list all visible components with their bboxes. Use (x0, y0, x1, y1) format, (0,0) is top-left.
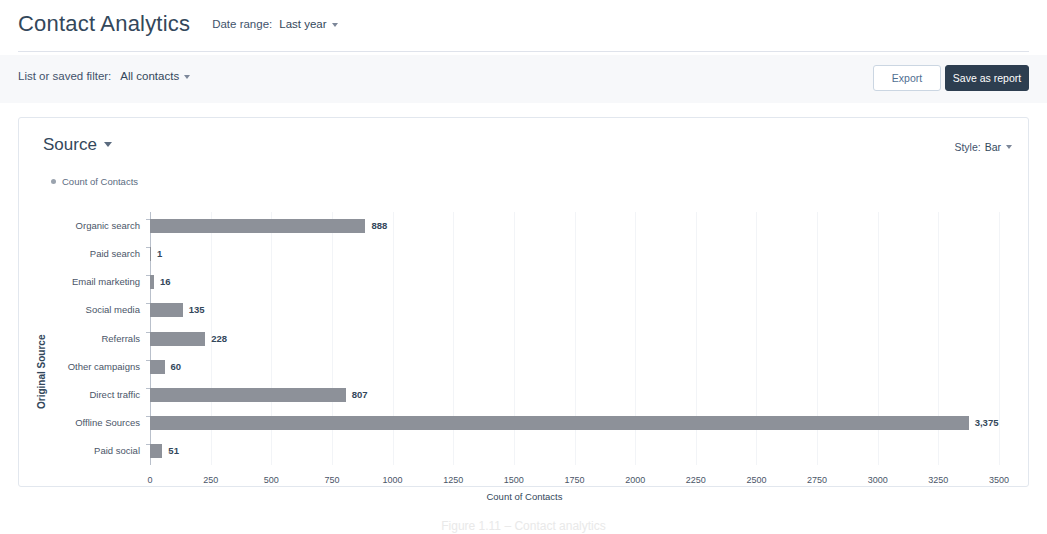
date-range-value: Last year (279, 18, 326, 30)
bar[interactable] (150, 303, 183, 317)
page-title: Contact Analytics (18, 11, 190, 37)
bar[interactable] (150, 219, 365, 233)
filter-bar: List or saved filter: All contacts Expor… (0, 55, 1047, 103)
save-as-report-button[interactable]: Save as report (945, 65, 1029, 91)
bar-value-label: 3,375 (975, 417, 999, 428)
x-axis-tick-label: 500 (264, 475, 279, 485)
figure-caption: Figure 1.11 – Contact analytics (0, 519, 1047, 533)
bar-value-label: 888 (371, 220, 387, 231)
bar[interactable] (150, 444, 162, 458)
x-axis-tick-label: 0 (147, 475, 152, 485)
chevron-down-icon (332, 23, 338, 27)
bar-value-label: 807 (352, 389, 368, 400)
bar-row[interactable]: 51 (150, 437, 999, 465)
date-range-selector[interactable]: Date range: Last year (212, 18, 337, 30)
x-axis-tick-label: 2250 (686, 475, 706, 485)
x-axis-tick-label: 1750 (564, 475, 584, 485)
bar-value-label: 60 (171, 361, 182, 372)
bar[interactable] (150, 388, 346, 402)
y-axis-category-label: Other campaigns (28, 361, 140, 372)
bar-row[interactable]: 807 (150, 381, 999, 409)
y-axis-category-label: Organic search (28, 220, 140, 231)
bar[interactable] (150, 360, 165, 374)
x-axis-tick-label: 2750 (807, 475, 827, 485)
x-axis-tick-label: 1500 (504, 475, 524, 485)
bar[interactable] (150, 332, 205, 346)
bar-value-label: 51 (168, 445, 179, 456)
chevron-down-icon (184, 75, 190, 79)
saved-filter-selector[interactable]: List or saved filter: All contacts (18, 70, 190, 82)
saved-filter-label: List or saved filter: (18, 70, 111, 82)
x-axis-tick-label: 3250 (928, 475, 948, 485)
y-axis-category-label: Email marketing (28, 276, 140, 287)
x-axis-tick-label: 1250 (443, 475, 463, 485)
y-axis-category-label: Offline Sources (28, 417, 140, 428)
y-axis-category-label: Direct traffic (28, 389, 140, 400)
plot-area: 0250500750100012501500175020002250250027… (150, 212, 999, 465)
page-header: Contact Analytics Date range: Last year (0, 0, 1047, 48)
x-axis-tick-label: 2500 (746, 475, 766, 485)
bar-row[interactable]: 135 (150, 296, 999, 324)
y-axis-category-label: Paid search (28, 248, 140, 259)
export-button[interactable]: Export (873, 65, 941, 91)
saved-filter-value: All contacts (120, 70, 179, 82)
bar[interactable] (150, 275, 154, 289)
bar-value-label: 16 (160, 276, 171, 287)
bar-row[interactable]: 3,375 (150, 409, 999, 437)
bar-row[interactable]: 1 (150, 240, 999, 268)
y-axis-category-label: Social media (28, 304, 140, 315)
bar-row[interactable]: 60 (150, 353, 999, 381)
x-axis-tick-label: 750 (324, 475, 339, 485)
bar-row[interactable]: 16 (150, 268, 999, 296)
x-axis-tick-label: 3000 (868, 475, 888, 485)
x-axis-tick-label: 2000 (625, 475, 645, 485)
x-axis-tick-label: 250 (203, 475, 218, 485)
bar-row[interactable]: 888 (150, 212, 999, 240)
x-axis-title: Count of Contacts (19, 491, 1030, 502)
date-range-label: Date range: (212, 18, 272, 30)
bar-chart: Original Source 025050075010001250150017… (19, 118, 1030, 488)
bar[interactable] (150, 416, 969, 430)
bar-row[interactable]: 228 (150, 325, 999, 353)
bar-value-label: 135 (189, 304, 205, 315)
bar[interactable] (150, 247, 151, 261)
y-axis-category-label: Paid social (28, 445, 140, 456)
x-axis-tick-label: 3500 (989, 475, 1009, 485)
chart-card: Source Style:Bar Count of Contacts Origi… (18, 117, 1029, 487)
bar-value-label: 228 (211, 333, 227, 344)
x-axis-tick-label: 1000 (383, 475, 403, 485)
y-axis-category-label: Referrals (28, 333, 140, 344)
header-divider (18, 51, 1029, 52)
bar-value-label: 1 (157, 248, 162, 259)
gridline (999, 212, 1000, 465)
